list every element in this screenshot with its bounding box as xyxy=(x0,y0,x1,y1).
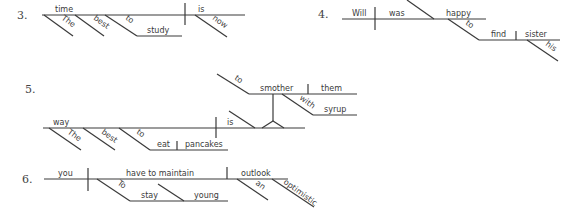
word-inf-to: to xyxy=(464,18,476,30)
word-mod: his xyxy=(544,39,559,53)
word-prep-object: syrup xyxy=(324,105,346,114)
word-prep: with xyxy=(298,93,317,110)
diagram-4: 4. Will was happy to find sister his xyxy=(318,0,560,61)
word-subject: you xyxy=(58,169,73,178)
word-inf-verb: find xyxy=(491,30,506,39)
diagram-number: 5. xyxy=(25,83,36,96)
word-mod1: an xyxy=(254,178,267,191)
diagram-number: 4. xyxy=(318,8,329,21)
complement-slant xyxy=(158,184,184,201)
word-verb: was xyxy=(389,9,405,18)
complement-slant xyxy=(407,0,434,19)
sentence-diagrams-canvas: 3. time The best to study is now 4. Will… xyxy=(0,0,588,224)
word-verb: is xyxy=(198,5,204,14)
diagram-6: 6. you have to maintain outlook To stay … xyxy=(22,167,319,208)
word-object: sister xyxy=(525,30,548,39)
word-inf-object: pancakes xyxy=(185,140,223,149)
word-verb: have to maintain xyxy=(126,169,194,178)
word-inf-to: To xyxy=(115,178,128,191)
word-subject: way xyxy=(53,118,69,127)
word-subject: time xyxy=(55,5,73,14)
diagram-number: 6. xyxy=(22,173,33,186)
word-verb: is xyxy=(227,118,233,127)
word-pn-object: them xyxy=(321,84,342,93)
word-object: outlook xyxy=(241,169,271,178)
diagram-5: 5. way The best to eat pancakes is to sm… xyxy=(25,73,357,150)
word-inf-complement: young xyxy=(194,191,219,200)
word-inf-verb: eat xyxy=(157,140,170,149)
pedestal-base xyxy=(262,121,284,128)
word-inf-to: to xyxy=(135,127,147,139)
diagram-3: 3. time The best to study is now xyxy=(17,3,245,37)
word-complement: happy xyxy=(446,9,471,18)
word-subject: Will xyxy=(352,9,366,18)
word-pn-verb: smother xyxy=(260,84,294,93)
word-inf-verb: stay xyxy=(141,191,158,200)
diagram-number: 3. xyxy=(17,9,28,22)
word-mod2: optimistic xyxy=(282,177,319,207)
word-inf-verb: study xyxy=(147,26,169,35)
word-mod2: best xyxy=(92,13,111,30)
word-pn-to: to xyxy=(233,73,245,85)
